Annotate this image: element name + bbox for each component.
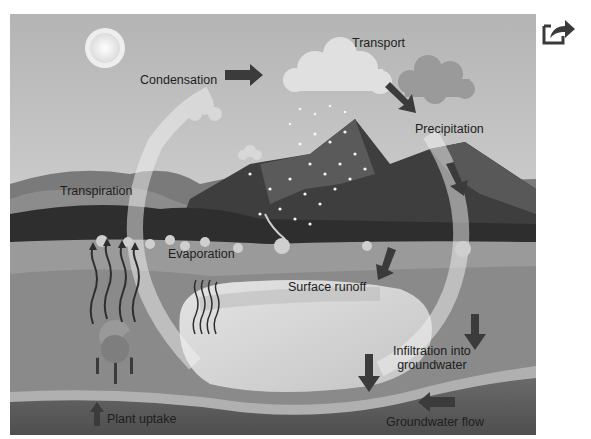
surface-runoff-label: Surface runoff: [288, 280, 366, 294]
transport-label: Transport: [352, 36, 405, 50]
plant-uptake-label: Plant uptake: [107, 412, 177, 426]
infiltration-label: Infiltration into groundwater: [393, 344, 471, 372]
share-icon: [541, 16, 577, 46]
infiltration-label-line1: Infiltration into: [393, 344, 471, 358]
infiltration-label-line2: groundwater: [393, 358, 471, 372]
condensation-label: Condensation: [140, 73, 217, 87]
precipitation-label: Precipitation: [415, 122, 484, 136]
sun-icon: [85, 28, 125, 68]
evaporation-label: Evaporation: [168, 247, 235, 261]
transpiration-label: Transpiration: [60, 184, 133, 198]
water-cycle-diagram: Condensation Transport Precipitation Tra…: [10, 14, 536, 435]
share-button[interactable]: [541, 16, 577, 46]
groundwater-flow-label: Groundwater flow: [386, 415, 484, 429]
